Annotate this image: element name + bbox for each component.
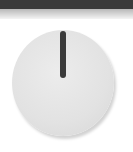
top-bar-shadow (0, 9, 133, 19)
rotary-knob[interactable] (12, 30, 114, 136)
top-bar (0, 0, 133, 9)
knob-indicator-icon (60, 31, 66, 78)
